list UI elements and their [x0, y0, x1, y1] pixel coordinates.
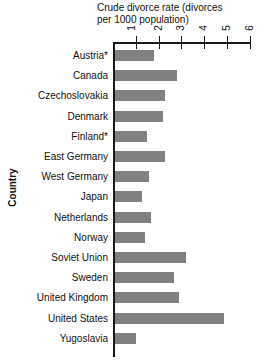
category-label: United States	[0, 312, 108, 326]
category-label: West Germany	[0, 170, 108, 184]
bar	[115, 111, 163, 122]
x-tick-top-mark	[227, 36, 228, 42]
x-tick-label: 6	[244, 21, 256, 35]
bar	[115, 232, 145, 243]
category-label: Soviet Union	[0, 251, 108, 265]
bar-row: Sweden	[113, 271, 250, 291]
bar	[115, 70, 177, 81]
bar-chart: Crude divorce rate (divorces per 1000 po…	[0, 0, 264, 363]
category-label: United Kingdom	[0, 291, 108, 305]
category-label: Denmark	[0, 110, 108, 124]
x-tick-mark	[204, 42, 205, 49]
bar-row: United Kingdom	[113, 291, 250, 311]
bar-row: Czechoslovakia	[113, 89, 250, 109]
bar-row: Canada	[113, 69, 250, 89]
bar	[115, 292, 179, 303]
bar	[115, 171, 149, 182]
bar	[115, 313, 224, 324]
plot-area: 123456 Austria*CanadaCzechoslovakiaDenma…	[113, 46, 250, 357]
x-tick-top-mark	[204, 36, 205, 42]
category-label: Finland*	[0, 130, 108, 144]
y-axis-title: Country	[7, 158, 18, 218]
category-label: Canada	[0, 69, 108, 83]
bar	[115, 252, 186, 263]
bar	[115, 212, 151, 223]
category-label: Sweden	[0, 271, 108, 285]
category-label: Netherlands	[0, 211, 108, 225]
category-label: Japan	[0, 190, 108, 204]
bar-row: Soviet Union	[113, 251, 250, 271]
x-tick-mark	[159, 42, 160, 49]
x-tick-label: 4	[198, 21, 210, 35]
bar	[115, 151, 165, 162]
bar-row: West Germany	[113, 170, 250, 190]
bar-row: Netherlands	[113, 211, 250, 231]
x-tick-mark	[250, 42, 251, 49]
x-tick-label: 5	[221, 21, 233, 35]
bar-row: Finland*	[113, 130, 250, 150]
x-tick-top-mark	[250, 36, 251, 42]
bar-row: East Germany	[113, 150, 250, 170]
bar-row: Yugoslavia	[113, 332, 250, 352]
x-tick-top-mark	[181, 36, 182, 42]
bar	[115, 191, 142, 202]
x-tick-mark	[181, 42, 182, 49]
x-tick-label: 2	[153, 21, 165, 35]
x-tick-mark	[136, 42, 137, 49]
bar-row: Norway	[113, 231, 250, 251]
x-tick-label: 3	[175, 21, 187, 35]
category-label: Norway	[0, 231, 108, 245]
category-label: Czechoslovakia	[0, 89, 108, 103]
x-tick-top-mark	[159, 36, 160, 42]
bar-row: Denmark	[113, 110, 250, 130]
category-label: Yugoslavia	[0, 332, 108, 346]
bar	[115, 272, 174, 283]
bar	[115, 90, 165, 101]
category-label: Austria*	[0, 49, 108, 63]
bar	[115, 333, 136, 344]
bar-row: Austria*	[113, 49, 250, 69]
bar	[115, 131, 147, 142]
x-tick-label: 1	[126, 21, 138, 35]
bar	[115, 50, 154, 61]
x-tick-mark	[227, 42, 228, 49]
category-label: East Germany	[0, 150, 108, 164]
bar-row: United States	[113, 312, 250, 332]
bar-row: Japan	[113, 190, 250, 210]
x-tick-top-mark	[136, 36, 137, 42]
